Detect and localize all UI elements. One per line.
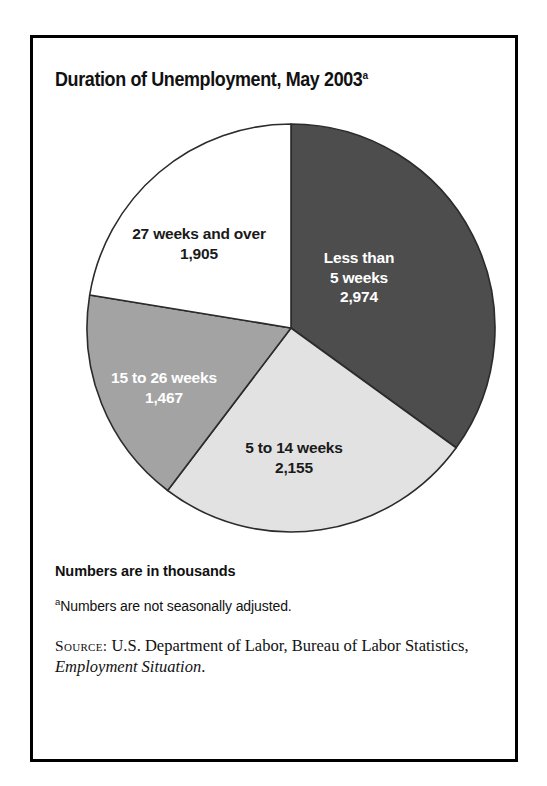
footnote: aNumbers are not seasonally adjusted. (55, 596, 499, 614)
footnote-text: Numbers are not seasonally adjusted. (60, 598, 291, 614)
page-title-text: Duration of Unemployment, May 2003 (55, 68, 362, 90)
source-publication-title: Employment Situation (55, 657, 201, 676)
source-line: Source: U.S. Department of Labor, Bureau… (55, 635, 499, 679)
page-title: Duration of Unemployment, May 2003a (55, 68, 368, 91)
pie-chart: Less than 5 weeks 2,974 5 to 14 weeks 2,… (83, 120, 499, 536)
pie-slice-4 (90, 124, 291, 328)
units-note: Numbers are in thousands (55, 563, 499, 579)
source-text-part2: . (201, 657, 205, 676)
figure-notes: Numbers are in thousands aNumbers are no… (55, 563, 499, 678)
pie-chart-svg (83, 120, 499, 536)
source-label: Source: (55, 637, 107, 654)
source-text-part1: U.S. Department of Labor, Bureau of Labo… (107, 636, 468, 655)
pie-slices (87, 124, 495, 532)
title-footnote-marker: a (362, 69, 367, 81)
figure-frame: Duration of Unemployment, May 2003a Less… (30, 35, 518, 762)
